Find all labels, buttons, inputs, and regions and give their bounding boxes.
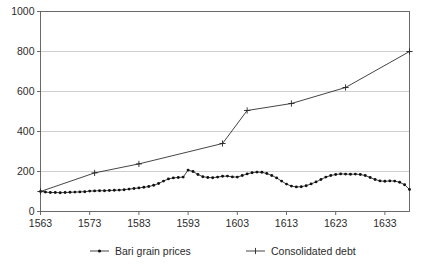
legend-item-0[interactable]: Bari grain prices xyxy=(90,245,191,257)
x-tick-label-1573: 1573 xyxy=(78,217,102,229)
data-point xyxy=(305,184,308,187)
data-point xyxy=(147,185,150,188)
y-tick-label-0: 0 xyxy=(29,205,35,217)
data-point xyxy=(251,171,254,174)
data-point xyxy=(403,183,406,186)
data-point xyxy=(73,191,76,194)
data-point xyxy=(275,176,278,179)
data-point xyxy=(295,185,298,188)
data-point xyxy=(78,190,81,193)
data-point xyxy=(93,189,96,192)
x-tick-label-1603: 1603 xyxy=(226,217,250,229)
data-point xyxy=(177,176,180,179)
x-tick-label-1613: 1613 xyxy=(275,217,299,229)
data-point xyxy=(315,180,318,183)
data-point xyxy=(44,191,47,194)
data-point xyxy=(260,171,263,174)
data-point xyxy=(88,190,91,193)
data-point xyxy=(339,172,342,175)
data-point xyxy=(354,173,357,176)
data-point xyxy=(310,182,313,185)
data-point xyxy=(92,170,98,176)
data-point xyxy=(201,175,204,178)
data-point xyxy=(152,184,155,187)
data-point xyxy=(364,174,367,177)
data-point xyxy=(256,171,259,174)
data-point xyxy=(187,169,190,172)
data-point xyxy=(133,187,136,190)
legend: Bari grain pricesConsolidated debt xyxy=(90,245,356,257)
data-point xyxy=(64,191,67,194)
data-point xyxy=(285,183,288,186)
data-point xyxy=(288,100,294,106)
data-point xyxy=(172,176,175,179)
data-point xyxy=(113,189,116,192)
gridlines xyxy=(41,52,410,172)
legend-label-0: Bari grain prices xyxy=(115,245,191,257)
data-point xyxy=(408,188,411,191)
data-point xyxy=(54,191,57,194)
y-tick-label-200: 200 xyxy=(17,165,35,177)
data-point xyxy=(393,180,396,183)
y-tick-label-400: 400 xyxy=(17,125,35,137)
data-point xyxy=(300,185,303,188)
x-axis: 15631573158315931603161316231633 xyxy=(29,212,397,230)
data-point xyxy=(398,181,401,184)
series-consolidated-debt xyxy=(37,48,412,194)
data-point xyxy=(123,188,126,191)
data-point xyxy=(319,178,322,181)
y-axis: 02004006008001000 xyxy=(11,5,40,217)
data-point xyxy=(98,189,101,192)
data-point xyxy=(383,180,386,183)
legend-marker-dot xyxy=(98,249,101,252)
data-point xyxy=(83,190,86,193)
data-point xyxy=(329,174,332,177)
data-point xyxy=(196,173,199,176)
data-point xyxy=(206,176,209,179)
data-point xyxy=(349,173,352,176)
data-point xyxy=(334,173,337,176)
legend-item-1[interactable]: Consolidated debt xyxy=(246,245,356,257)
data-point xyxy=(324,176,327,179)
y-tick-label-800: 800 xyxy=(17,45,35,57)
y-tick-label-600: 600 xyxy=(17,85,35,97)
data-point xyxy=(236,176,239,179)
x-tick-label-1633: 1633 xyxy=(373,217,397,229)
data-point xyxy=(69,191,72,194)
data-point xyxy=(374,178,377,181)
data-point xyxy=(49,191,52,194)
data-point xyxy=(359,173,362,176)
x-tick-label-1583: 1583 xyxy=(127,217,151,229)
data-point xyxy=(162,180,165,183)
data-point xyxy=(221,175,224,178)
data-point xyxy=(290,185,293,188)
data-point xyxy=(118,189,121,192)
x-tick-label-1623: 1623 xyxy=(324,217,348,229)
data-point xyxy=(219,140,225,146)
data-point xyxy=(142,186,145,189)
x-tick-label-1563: 1563 xyxy=(29,217,53,229)
data-point xyxy=(182,176,185,179)
data-point xyxy=(103,189,106,192)
data-point xyxy=(244,107,250,113)
chart-container: 0200400600800100015631573158315931603161… xyxy=(0,0,424,265)
data-point xyxy=(59,191,62,194)
data-point xyxy=(344,173,347,176)
data-point xyxy=(388,179,391,182)
data-point xyxy=(108,189,111,192)
y-tick-label-1000: 1000 xyxy=(11,5,35,17)
data-point xyxy=(231,175,234,178)
data-point xyxy=(265,172,268,175)
data-point xyxy=(216,176,219,179)
data-point xyxy=(157,182,160,185)
data-point xyxy=(379,179,382,182)
data-point xyxy=(369,176,372,179)
data-point xyxy=(37,188,43,194)
line-chart: 0200400600800100015631573158315931603161… xyxy=(0,0,424,265)
data-point xyxy=(211,176,214,179)
data-point xyxy=(246,172,249,175)
legend-label-1: Consolidated debt xyxy=(271,245,356,257)
data-point xyxy=(167,177,170,180)
data-point xyxy=(280,180,283,183)
data-point xyxy=(192,170,195,173)
